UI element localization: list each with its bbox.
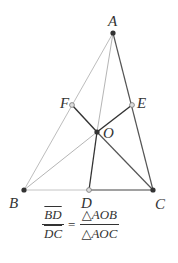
- rhs-fraction: △AOB △AOC: [79, 207, 119, 242]
- rhs-numerator: △AOB: [80, 207, 119, 225]
- point-f: [70, 103, 75, 108]
- point-o: [94, 129, 99, 134]
- segment-fo: [72, 105, 97, 132]
- side-ab: [24, 33, 113, 190]
- label-b: B: [9, 196, 18, 211]
- point-b: [21, 187, 26, 192]
- point-a: [110, 30, 115, 35]
- lhs-fraction: BD DC: [42, 207, 64, 242]
- label-e: E: [137, 96, 146, 111]
- point-c: [150, 187, 155, 192]
- point-d: [87, 188, 92, 193]
- side-ac: [113, 33, 153, 190]
- label-c: C: [155, 197, 165, 212]
- point-e: [130, 103, 135, 108]
- label-o: O: [103, 126, 114, 141]
- equals-sign: =: [68, 217, 75, 233]
- lhs-numerator: BD: [42, 207, 63, 225]
- rhs-denominator: △AOC: [79, 225, 119, 242]
- segment-bo: [24, 132, 97, 190]
- label-f: F: [60, 96, 69, 111]
- label-a: A: [108, 14, 117, 29]
- ratio-formula: BD DC = △AOB △AOC: [42, 207, 119, 242]
- segment-od: [89, 132, 97, 190]
- lhs-denominator: DC: [42, 225, 64, 242]
